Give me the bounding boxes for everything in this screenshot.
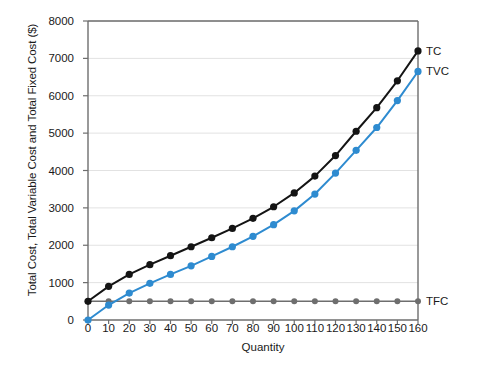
x-axis-title: Quantity <box>0 341 488 353</box>
data-point-tc <box>146 261 153 268</box>
data-point-tc <box>270 203 277 210</box>
x-tick-label: 40 <box>164 322 177 334</box>
x-tick-label: 10 <box>102 322 115 334</box>
x-tick-label: 160 <box>408 322 427 334</box>
data-point-tfc <box>147 298 153 304</box>
data-point-tvc <box>105 301 112 308</box>
series-label-tfc: TFC <box>426 295 448 307</box>
data-point-tfc <box>188 298 194 304</box>
data-point-tc <box>373 104 380 111</box>
x-tick-label: 50 <box>185 322 198 334</box>
x-tick-label: 60 <box>205 322 218 334</box>
data-point-tc <box>126 271 133 278</box>
plot-area <box>0 0 488 366</box>
data-point-tc <box>394 77 401 84</box>
data-point-tvc <box>414 68 421 75</box>
data-point-tc <box>208 234 215 241</box>
x-tick-label: 110 <box>306 322 324 334</box>
data-point-tvc <box>332 170 339 177</box>
data-point-tc <box>353 128 360 135</box>
data-point-tvc <box>126 289 133 296</box>
data-point-tc <box>414 47 421 54</box>
data-point-tc <box>167 252 174 259</box>
data-point-tvc <box>188 262 195 269</box>
data-point-tvc <box>291 207 298 214</box>
x-tick-label: 70 <box>226 322 239 334</box>
data-point-tc <box>188 243 195 250</box>
data-point-tvc <box>146 280 153 287</box>
data-point-tfc <box>209 298 215 304</box>
data-point-tfc <box>353 298 359 304</box>
x-tick-label: 120 <box>326 322 345 334</box>
data-point-tfc <box>271 298 277 304</box>
series-line-tc <box>88 51 418 301</box>
data-point-tfc <box>168 298 174 304</box>
data-point-tvc <box>249 233 256 240</box>
data-point-tc <box>249 215 256 222</box>
data-point-tvc <box>394 97 401 104</box>
data-point-tfc <box>229 298 235 304</box>
data-point-tc <box>311 173 318 180</box>
x-tick-label: 0 <box>85 322 91 334</box>
data-point-tfc <box>250 298 256 304</box>
series-label-tvc: TVC <box>426 65 449 77</box>
x-tick-label: 150 <box>388 322 407 334</box>
x-tick-label: 90 <box>267 322 280 334</box>
data-point-tfc <box>312 298 318 304</box>
data-point-tfc <box>415 298 421 304</box>
data-point-tvc <box>229 243 236 250</box>
x-axis-title-text: Quantity <box>242 341 285 353</box>
data-point-tc <box>105 283 112 290</box>
series-label-tc: TC <box>426 45 441 57</box>
x-tick-label: 80 <box>247 322 260 334</box>
data-point-tc <box>332 152 339 159</box>
data-point-tfc <box>291 298 297 304</box>
cost-curves-chart: Total Cost, Total Variable Cost and Tota… <box>0 0 488 366</box>
x-tick-label: 20 <box>123 322 136 334</box>
x-tick-label: 130 <box>347 322 366 334</box>
data-point-tc <box>229 225 236 232</box>
data-point-tvc <box>270 221 277 228</box>
data-point-tvc <box>373 124 380 131</box>
x-tick-label: 140 <box>367 322 386 334</box>
x-tick-label: 100 <box>285 322 304 334</box>
data-point-tvc <box>167 271 174 278</box>
data-point-tc <box>84 298 91 305</box>
data-point-tfc <box>394 298 400 304</box>
data-point-tfc <box>374 298 380 304</box>
data-point-tc <box>291 189 298 196</box>
data-point-tvc <box>208 253 215 260</box>
data-point-tfc <box>333 298 339 304</box>
x-tick-label: 30 <box>143 322 156 334</box>
data-point-tvc <box>311 190 318 197</box>
data-point-tfc <box>126 298 132 304</box>
data-point-tvc <box>353 147 360 154</box>
